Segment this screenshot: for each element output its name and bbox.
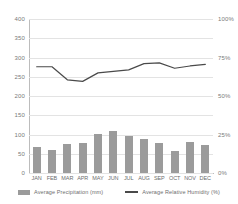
y-axis-tick-right: 0% <box>218 170 227 176</box>
legend-label-humidity: Average Relative Humidity (%) <box>142 189 220 195</box>
y-axis-tick-left: 250 <box>14 74 25 80</box>
legend-item-precipitation: Average Precipitation (mm) <box>18 189 103 195</box>
chart-legend: Average Precipitation (mm) Average Relat… <box>0 189 238 195</box>
y-axis-tick-left: 50 <box>18 151 25 157</box>
x-axis-label-jul: JUL <box>121 175 136 181</box>
legend-label-precipitation: Average Precipitation (mm) <box>34 189 103 195</box>
x-axis-label-dec: DEC <box>198 175 213 181</box>
x-axis-label-jun: JUN <box>106 175 121 181</box>
y-axis-tick-left: 0 <box>21 170 25 176</box>
y-axis-tick-left: 400 <box>14 16 25 22</box>
line-swatch-icon <box>125 191 138 193</box>
x-axis-label-nov: NOV <box>182 175 197 181</box>
y-axis-tick-right: 100% <box>218 16 234 22</box>
x-axis-label-feb: FEB <box>44 175 59 181</box>
y-axis-tick-left: 100 <box>14 132 25 138</box>
y-axis-tick-right: 25% <box>218 132 231 138</box>
x-axis-label-mar: MAR <box>60 175 75 181</box>
x-axis-labels: JANFEBMARAPRMAYJUNJULAUGSEPOCTNOVDEC <box>29 175 213 181</box>
line-series-humidity <box>29 19 213 173</box>
plot-area: 050100150200250300350400 0%25%50%75%100% <box>29 19 213 173</box>
y-axis-tick-right: 75% <box>218 55 231 61</box>
y-axis-tick-left: 150 <box>14 112 25 118</box>
bar-swatch-icon <box>18 190 30 195</box>
y-axis-tick-left: 300 <box>14 55 25 61</box>
x-axis-label-jan: JAN <box>29 175 44 181</box>
x-axis-label-apr: APR <box>75 175 90 181</box>
x-axis-label-sep: SEP <box>152 175 167 181</box>
x-axis-label-may: MAY <box>90 175 105 181</box>
y-axis-tick-left: 200 <box>14 93 25 99</box>
y-axis-tick-left: 350 <box>14 35 25 41</box>
legend-item-humidity: Average Relative Humidity (%) <box>125 189 220 195</box>
y-axis-tick-right: 50% <box>218 93 231 99</box>
x-axis-label-oct: OCT <box>167 175 182 181</box>
gridline <box>29 173 213 174</box>
chart-container: 050100150200250300350400 0%25%50%75%100%… <box>0 0 238 204</box>
x-axis-label-aug: AUG <box>136 175 151 181</box>
